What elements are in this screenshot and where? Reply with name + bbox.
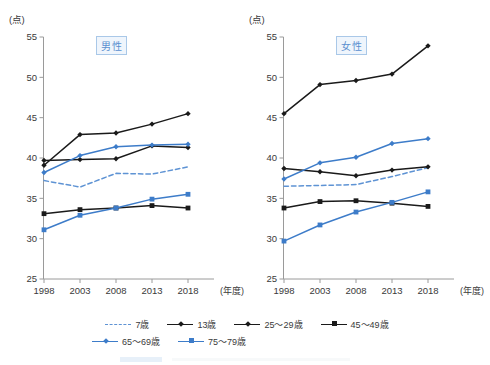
legend-key-line-diamond-icon bbox=[92, 337, 118, 347]
x-tick-label: 2003 bbox=[309, 285, 330, 296]
x-tick-label: 2018 bbox=[417, 285, 438, 296]
figure-root: (点) 男性 253035404550551998200320082013201… bbox=[0, 0, 490, 365]
series-point-marker bbox=[353, 78, 358, 83]
series-point-marker bbox=[426, 204, 431, 209]
series-point-marker bbox=[281, 166, 286, 171]
legend-row-2: 65〜69歳 75〜79歳 bbox=[0, 333, 490, 350]
series-point-marker bbox=[42, 211, 47, 216]
series-point-marker bbox=[77, 153, 82, 158]
y-tick-label: 45 bbox=[266, 112, 277, 123]
x-tick-label: 2018 bbox=[177, 285, 198, 296]
x-tick-label: 2013 bbox=[141, 285, 162, 296]
series-point-marker bbox=[113, 156, 118, 161]
series-point-marker bbox=[318, 199, 323, 204]
series-point-marker bbox=[282, 206, 287, 211]
series-point-marker bbox=[113, 144, 118, 149]
legend-item-75-79sai[interactable]: 75〜79歳 bbox=[178, 335, 246, 348]
series-point-marker bbox=[41, 158, 46, 163]
series-line bbox=[44, 167, 188, 187]
series-line bbox=[44, 194, 188, 229]
y-tick-label: 55 bbox=[26, 31, 37, 42]
y-tick-label: 45 bbox=[26, 112, 37, 123]
legend-item-7sai[interactable]: 7歳 bbox=[105, 318, 149, 331]
x-tick-label: 2003 bbox=[69, 285, 90, 296]
legend-key-line-square-icon bbox=[178, 337, 204, 347]
x-tick-label: 2008 bbox=[345, 285, 366, 296]
series-point-marker bbox=[353, 155, 358, 160]
y-tick-label: 40 bbox=[266, 152, 277, 163]
y-tick-label: 30 bbox=[266, 233, 277, 244]
y-tick-label: 25 bbox=[266, 273, 277, 284]
series-point-marker bbox=[425, 136, 430, 141]
series-point-marker bbox=[354, 210, 359, 215]
series-point-marker bbox=[389, 141, 394, 146]
series-point-marker bbox=[114, 206, 119, 211]
plot-svg-male: 2530354045505519982003200820132018(年度) bbox=[0, 0, 245, 310]
series-point-marker bbox=[282, 239, 287, 244]
y-tick-label: 50 bbox=[26, 72, 37, 83]
y-tick-label: 35 bbox=[26, 193, 37, 204]
x-tick-label: 2008 bbox=[105, 285, 126, 296]
series-point-marker bbox=[78, 207, 83, 212]
y-tick-label: 55 bbox=[266, 31, 277, 42]
legend-label: 7歳 bbox=[135, 318, 149, 331]
x-tick-label: 1998 bbox=[33, 285, 54, 296]
plot-svg-female: 2530354045505519982003200820132018(年度) bbox=[240, 0, 490, 310]
series-point-marker bbox=[353, 173, 358, 178]
legend-key-dashed-line-icon bbox=[105, 320, 131, 330]
legend-row-1: 7歳 13歳 25〜29歳 45〜49歳 bbox=[0, 316, 490, 333]
y-tick-label: 30 bbox=[26, 233, 37, 244]
y-tick-label: 40 bbox=[26, 152, 37, 163]
series-point-marker bbox=[389, 167, 394, 172]
legend-label: 75〜79歳 bbox=[208, 335, 246, 348]
series-point-marker bbox=[78, 213, 83, 218]
series-point-marker bbox=[41, 170, 46, 175]
series-point-marker bbox=[149, 121, 154, 126]
series-point-marker bbox=[113, 130, 118, 135]
series-point-marker bbox=[426, 189, 431, 194]
series-point-marker bbox=[317, 169, 322, 174]
series-point-marker bbox=[150, 203, 155, 208]
series-point-marker bbox=[281, 176, 286, 181]
legend-label: 25〜29歳 bbox=[264, 318, 302, 331]
series-point-marker bbox=[317, 160, 322, 165]
series-point-marker bbox=[318, 223, 323, 228]
page-edge-artifact bbox=[120, 356, 350, 363]
legend-key-line-square-icon bbox=[321, 320, 347, 330]
series-point-marker bbox=[42, 227, 47, 232]
series-point-marker bbox=[185, 111, 190, 116]
legend-label: 13歳 bbox=[197, 318, 216, 331]
artifact-line bbox=[172, 358, 350, 361]
series-point-marker bbox=[186, 206, 191, 211]
series-point-marker bbox=[390, 200, 395, 205]
series-point-marker bbox=[150, 197, 155, 202]
y-tick-label: 25 bbox=[26, 273, 37, 284]
y-tick-label: 35 bbox=[266, 193, 277, 204]
legend-item-13sai[interactable]: 13歳 bbox=[167, 318, 216, 331]
series-point-marker bbox=[185, 142, 190, 147]
legend-item-65-69sai[interactable]: 65〜69歳 bbox=[92, 335, 160, 348]
legend-key-line-diamond-icon bbox=[234, 320, 260, 330]
legend-item-25-29sai[interactable]: 25〜29歳 bbox=[234, 318, 302, 331]
series-point-marker bbox=[186, 192, 191, 197]
legend-item-45-49sai[interactable]: 45〜49歳 bbox=[321, 318, 389, 331]
legend-key-line-diamond-icon bbox=[167, 320, 193, 330]
chart-panel-female: (点) 女性 253035404550551998200320082013201… bbox=[240, 0, 485, 310]
x-tick-label: 2013 bbox=[381, 285, 402, 296]
legend-label: 45〜49歳 bbox=[351, 318, 389, 331]
legend-label: 65〜69歳 bbox=[122, 335, 160, 348]
y-tick-label: 50 bbox=[266, 72, 277, 83]
chart-panel-male: (点) 男性 253035404550551998200320082013201… bbox=[0, 0, 245, 310]
x-axis-unit-label: (年度) bbox=[460, 285, 484, 296]
series-point-marker bbox=[354, 198, 359, 203]
artifact-block bbox=[120, 357, 162, 362]
x-tick-label: 1998 bbox=[273, 285, 294, 296]
